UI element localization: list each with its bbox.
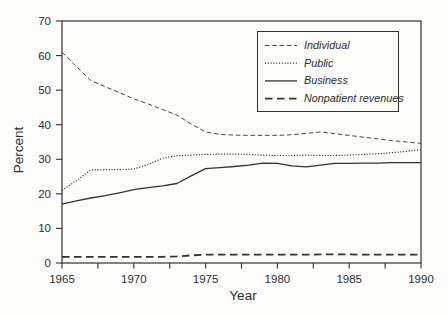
y-tick-label: 10 (38, 222, 51, 234)
y-tick-label: 60 (38, 50, 51, 62)
x-tick-label: 1970 (121, 273, 147, 285)
x-tick-label: 1985 (336, 273, 362, 285)
y-tick-label: 70 (38, 15, 51, 27)
series-line-public (62, 150, 421, 191)
legend: IndividualPublicBusinessNonpatient reven… (258, 32, 405, 112)
legend-label: Individual (304, 39, 350, 51)
y-tick-label: 50 (38, 84, 51, 96)
y-tick-label: 20 (38, 188, 51, 200)
chart-figure: 010203040506070 196519701975198019851990… (0, 0, 448, 314)
y-axis-ticks: 010203040506070 (38, 15, 62, 269)
legend-label: Business (304, 74, 348, 86)
y-axis-title: Percent (11, 126, 26, 173)
legend-label: Public (304, 57, 334, 69)
y-tick-label: 30 (38, 153, 51, 165)
x-axis-title: Year (229, 288, 257, 303)
line-chart: 010203040506070 196519701975198019851990… (0, 0, 448, 314)
series-line-nonpatient-revenues (62, 254, 421, 256)
legend-label: Nonpatient revenues (304, 92, 404, 104)
x-tick-label: 1980 (265, 273, 291, 285)
y-tick-label: 0 (45, 257, 51, 269)
series-line-business (62, 163, 421, 205)
x-tick-label: 1990 (408, 273, 434, 285)
x-axis-ticks: 196519701975198019851990 (49, 263, 434, 285)
x-tick-label: 1965 (49, 273, 75, 285)
x-tick-label: 1975 (193, 273, 219, 285)
y-tick-label: 40 (38, 119, 51, 131)
